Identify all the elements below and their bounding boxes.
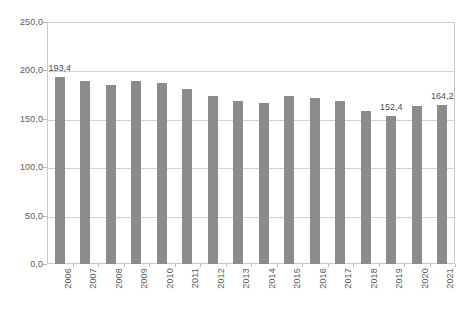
x-axis-tick-label: 2021 [446, 268, 455, 289]
x-axis-tick-mark [430, 264, 431, 267]
bar-slot [302, 22, 328, 264]
bar-slot [175, 22, 201, 264]
bar-slot [124, 22, 150, 264]
x-axis-tick-mark [251, 264, 252, 267]
x-axis-tick-label: 2020 [421, 268, 430, 289]
bar[interactable] [284, 96, 294, 264]
bar-slot: 164,2 [430, 22, 456, 264]
x-axis-tick-mark [73, 264, 74, 267]
bar-slot [353, 22, 379, 264]
y-axis-tick-label: 200,0 [0, 66, 43, 75]
bar[interactable] [106, 85, 116, 264]
bar-value-label: 164,2 [431, 92, 454, 101]
bar[interactable] [55, 77, 65, 264]
x-axis-tick-mark [379, 264, 380, 267]
bar-slot [277, 22, 303, 264]
x-axis-tick-label: 2011 [191, 268, 200, 288]
bar[interactable] [208, 96, 218, 264]
bar[interactable] [386, 116, 396, 264]
x-axis-tick-label: 2016 [319, 268, 328, 289]
x-axis-tick-label: 2015 [293, 268, 302, 289]
bar-slot [226, 22, 252, 264]
bar[interactable] [335, 101, 345, 264]
bar[interactable] [361, 111, 371, 264]
bar[interactable] [131, 81, 141, 264]
x-axis-tick-mark [302, 264, 303, 267]
x-axis-tick-label: 2006 [64, 268, 73, 289]
y-axis-tick-mark [43, 264, 47, 265]
bar-slot [251, 22, 277, 264]
x-axis-tick-mark [200, 264, 201, 267]
bar-slot [328, 22, 354, 264]
bars-layer: 193,4152,4164,2 [47, 22, 455, 264]
bar-slot: 193,4 [47, 22, 73, 264]
x-axis-tick-mark [455, 264, 456, 267]
x-axis-tick-mark [353, 264, 354, 267]
bar[interactable] [310, 98, 320, 264]
x-axis-tick-mark [149, 264, 150, 267]
x-axis-tick-label: 2010 [166, 268, 175, 289]
y-axis-tick-label: 50,0 [0, 212, 43, 221]
bar[interactable] [182, 89, 192, 264]
bar-slot: 152,4 [379, 22, 405, 264]
x-axis-tick-label: 2013 [242, 268, 251, 289]
y-axis-tick-label: 150,0 [0, 115, 43, 124]
x-axis-tick-label: 2007 [89, 268, 98, 289]
bar-chart: 250,0200,0150,0100,050,00,0 193,4152,416… [0, 0, 470, 317]
x-axis-tick-mark [277, 264, 278, 267]
x-axis-tick-label: 2008 [115, 268, 124, 289]
bar-slot [149, 22, 175, 264]
y-axis-tick-label: 0,0 [0, 260, 43, 269]
bar[interactable] [80, 81, 90, 264]
x-axis-tick-label: 2009 [140, 268, 149, 289]
x-axis-tick-label: 2014 [268, 268, 277, 289]
bar-slot [73, 22, 99, 264]
bar[interactable] [233, 101, 243, 264]
bar-slot [98, 22, 124, 264]
x-axis-tick-mark [328, 264, 329, 267]
x-axis-tick-mark [124, 264, 125, 267]
bar[interactable] [157, 83, 167, 264]
x-axis-tick-label: 2017 [344, 268, 353, 289]
x-axis-tick-label: 2012 [217, 268, 226, 289]
bar[interactable] [259, 103, 269, 264]
bar[interactable] [437, 105, 447, 264]
x-axis-tick-mark [98, 264, 99, 267]
x-axis-tick-mark [226, 264, 227, 267]
x-axis-tick-labels: 2006200720082009201020112012201320142015… [47, 268, 455, 316]
bar-value-label: 152,4 [380, 103, 403, 112]
y-axis-tick-label: 100,0 [0, 163, 43, 172]
x-axis-tick-mark [404, 264, 405, 267]
bar-value-label: 193,4 [48, 64, 71, 73]
bar[interactable] [412, 106, 422, 264]
x-axis-tick-mark [175, 264, 176, 267]
x-axis-tick-label: 2019 [395, 268, 404, 289]
bar-slot [200, 22, 226, 264]
bar-slot [404, 22, 430, 264]
x-axis-tick-label: 2018 [370, 268, 379, 289]
y-axis-tick-label: 250,0 [0, 18, 43, 27]
